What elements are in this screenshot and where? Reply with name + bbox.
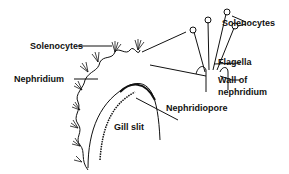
label-nephridium: Nephridium (14, 75, 64, 84)
label-solenocytes-right: Solenocytes (222, 19, 275, 28)
label-wall-of-line2: nephridium (218, 88, 267, 97)
label-nephridiopore: Nephridiopore (166, 104, 228, 113)
label-solenocytes-left: Solenocytes (30, 42, 83, 51)
label-gill-slit: Gill slit (114, 123, 144, 132)
label-flagella: Flagella (218, 58, 252, 67)
nephridium-diagram: Solenocytes Nephridium Solenocytes Flage… (0, 0, 289, 174)
label-wall-of-line1: Wall of (218, 76, 247, 85)
